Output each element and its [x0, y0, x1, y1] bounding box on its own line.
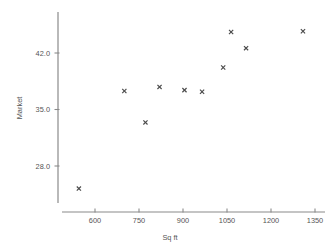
plot-canvas: 28.035.042.0 600750900105012001350 Sq ft… [0, 0, 336, 248]
data-point-marker [143, 120, 147, 124]
x-axis: 600750900105012001350 [62, 209, 325, 226]
x-tick-label: 1350 [307, 216, 323, 225]
x-tick-label: 1050 [219, 216, 235, 225]
y-axis-tick-labels: 28.035.042.0 [36, 49, 50, 171]
data-point-marker [221, 65, 225, 69]
data-point-marker [182, 88, 186, 92]
x-tick-label: 900 [177, 216, 189, 225]
data-point-marker [200, 90, 204, 94]
y-tick-label: 28.0 [36, 162, 50, 171]
x-axis-title: Sq ft [162, 233, 177, 242]
y-axis-tick-marks [55, 53, 60, 166]
data-point-marker [77, 187, 81, 191]
data-point-marker [122, 89, 126, 93]
x-axis-tick-labels: 600750900105012001350 [89, 216, 323, 225]
x-tick-label: 750 [133, 216, 145, 225]
scatter-plot-figure: 28.035.042.0 600750900105012001350 Sq ft… [0, 0, 336, 248]
x-tick-label: 1200 [263, 216, 279, 225]
y-tick-label: 35.0 [36, 105, 50, 114]
data-point-marker [157, 85, 161, 89]
y-axis: 28.035.042.0 [36, 12, 60, 203]
data-point-marker [301, 29, 305, 33]
y-tick-label: 42.0 [36, 49, 50, 58]
data-point-marker [229, 30, 233, 34]
data-point-marker [244, 46, 248, 50]
y-axis-title: Market [15, 97, 24, 120]
x-tick-label: 600 [89, 216, 101, 225]
data-point-markers [77, 29, 305, 191]
